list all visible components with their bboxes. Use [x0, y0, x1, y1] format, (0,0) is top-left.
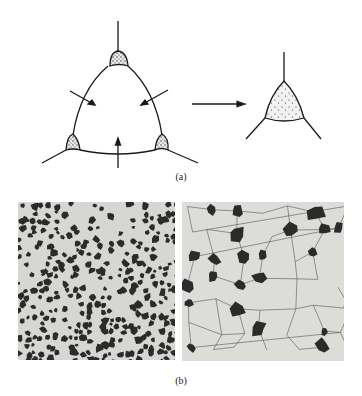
- nucleus-bottom-left: [66, 134, 80, 150]
- arrow-right-icon: [237, 102, 245, 107]
- dark-phase-particle: [108, 352, 111, 356]
- dark-phase-particle: [111, 359, 117, 365]
- dark-phase-particle: [344, 302, 356, 317]
- panel-b: [13, 201, 356, 366]
- panel-b-label: (b): [175, 375, 187, 387]
- panel-a-label: (a): [175, 171, 186, 183]
- grain-boundary-bottom-right: [304, 118, 321, 139]
- arrowhead-icon: [116, 138, 121, 145]
- dark-phase-particle: [174, 201, 178, 206]
- final-particle: [246, 52, 321, 139]
- nucleus-bottom-right: [155, 134, 168, 150]
- nucleus-top: [110, 51, 128, 66]
- dark-phase-particle: [346, 251, 356, 262]
- dark-phase-particle: [17, 361, 21, 365]
- grain-boundary-bottom-left: [246, 118, 265, 139]
- grain-boundary-bottom-right: [168, 150, 198, 163]
- arrowhead-icon: [141, 100, 148, 105]
- figure: (a) (b): [0, 0, 362, 396]
- panel-a: [42, 21, 321, 168]
- grain-boundary-bottom-left: [42, 150, 66, 163]
- grain-boundary-left-curve: [73, 66, 108, 135]
- micrograph-coarse: [180, 202, 356, 361]
- dark-phase-particle: [16, 335, 23, 342]
- micrograph-fine: [13, 201, 181, 366]
- arrowhead-icon: [88, 100, 95, 105]
- second-phase-particle: [265, 81, 304, 121]
